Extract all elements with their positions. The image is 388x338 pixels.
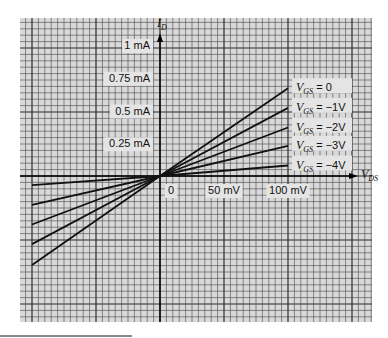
chart: 1 mA0.75 mA0.5 mA0.25 mA050 mV100 mV VGS…: [0, 0, 388, 338]
y-tick-label: 0.75 mA: [109, 72, 151, 84]
y-tick-label: 0.25 mA: [109, 137, 151, 149]
x-tick-label: 100 mV: [269, 184, 308, 196]
y-tick-label: 0.5 mA: [115, 105, 151, 117]
series-labels: VGS = 0VGS = −1VVGS = −2VVGS = −3VVGS = …: [292, 78, 352, 173]
x-tick-label: 50 mV: [208, 184, 240, 196]
y-tick-label: 1 mA: [124, 39, 150, 51]
divider: [0, 335, 132, 337]
x-tick-label: 0: [168, 184, 174, 196]
